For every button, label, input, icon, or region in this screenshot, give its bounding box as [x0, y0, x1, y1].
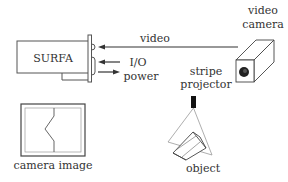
video-camera: video camera	[236, 4, 284, 82]
io-power-links: I/O power	[98, 56, 159, 83]
video-link: video	[98, 32, 238, 50]
camera-image: camera image	[13, 104, 92, 172]
prism-object-icon	[173, 132, 206, 160]
camera-label-line2: camera	[242, 18, 284, 31]
video-camera-icon	[236, 40, 274, 82]
surfa-unit: SURFA	[17, 35, 95, 82]
power-label: power	[124, 70, 160, 83]
arrow-left-icon	[98, 45, 105, 50]
surfa-label: SURFA	[33, 52, 74, 65]
io-connector-icon	[92, 57, 96, 75]
object: object	[173, 132, 221, 175]
io-label: I/O	[129, 56, 146, 69]
projector-label-line2: projector	[180, 78, 232, 91]
video-link-label: video	[139, 32, 170, 45]
object-label: object	[186, 162, 221, 175]
arrow-right-icon	[113, 70, 120, 75]
arrow-left-icon	[98, 60, 105, 65]
projector-label-line1: stripe	[190, 65, 222, 78]
camera-label-line1: video	[247, 4, 278, 17]
camera-image-label: camera image	[13, 159, 92, 172]
surfa-system-diagram: SURFA video I/O power video camera strip…	[0, 0, 288, 182]
projector-icon	[191, 96, 196, 108]
video-connector-icon	[92, 44, 96, 50]
